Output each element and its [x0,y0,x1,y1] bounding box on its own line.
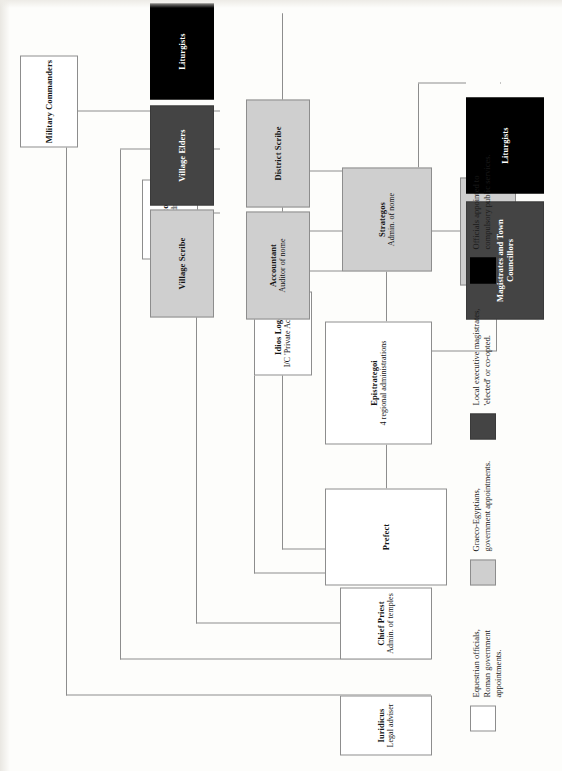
node-subtitle: Legal adviser [386,703,395,747]
connector [432,230,460,231]
legend-swatch-white [470,705,496,731]
node-prefect-rect[interactable]: Prefect [325,488,447,585]
node-title: Village Scribe [177,237,187,289]
node-title: District Scribe [273,126,283,180]
legend-swatch-gray [470,559,496,585]
diagram-canvas: Iuridicus Legal adviser Chief Priest Adm… [0,0,562,771]
connector [500,82,501,83]
legend-label: Graeco-Egyptians, government appointment… [470,460,493,551]
legend-swatch-black [470,257,496,283]
node-subtitle: Admin. of temples [386,593,395,654]
connector [282,13,283,27]
legend: Equestrian officials, Roman government a… [470,171,550,731]
node-epistrategoi[interactable]: Epistrategoi 4 regional administrations [325,321,432,444]
node-village-elders[interactable]: Village Elders [150,105,214,205]
connector [418,83,419,167]
node-title: Village Elders [177,129,187,181]
node-title: Prefect [381,523,391,550]
node-title: Liturgists [500,127,510,163]
legend-item: Officials appointed to compulsory public… [470,123,496,283]
connector [282,351,283,549]
legend-label: Equestrian officials, Roman government a… [470,629,505,697]
connector [310,170,342,171]
connector [120,149,121,659]
node-subtitle: 4 regional administrations [379,340,388,425]
legend-label: Officials appointed to compulsory public… [470,154,493,249]
node-title: Epistrategoi [369,360,379,406]
node-strategos[interactable]: Strategos Admin. of nome [342,167,432,271]
node-subtitle: Admin. of nome [387,192,396,245]
node-chief-priest[interactable]: Chief Priest Admin. of temples [340,587,432,659]
connector [66,111,67,695]
node-title: Liturgists [177,33,187,69]
node-title: Chief Priest [376,601,386,645]
node-accountant[interactable]: Accountant Auditor of nome [246,211,310,319]
node-title: Accountant [268,243,278,286]
legend-item: Local executive magistrates, 'elected' o… [470,279,496,439]
legend-label: Local executive magistrates, 'elected' o… [470,308,493,405]
node-title: Iuridicus [376,708,386,742]
node-iuridicus[interactable]: Iuridicus Legal adviser [340,695,432,755]
connector [386,271,387,321]
node-liturgists-village[interactable]: Liturgists [150,3,214,99]
connector [386,444,387,488]
legend-item: Graeco-Egyptians, government appointment… [470,435,496,585]
legend-swatch-dark [470,413,496,439]
node-district-scribe[interactable]: District Scribe [246,99,310,207]
connector [310,230,342,231]
node-military-commanders[interactable]: Military Commanders [20,55,78,147]
connector [418,82,466,83]
legend-item: Equestrian officials, Roman government a… [470,581,505,731]
node-title: Strategos [377,202,387,237]
node-village-scribe-box[interactable]: Village Scribe [150,209,214,317]
node-subtitle: Auditor of nome [278,238,287,292]
node-title: Military Commanders [44,59,54,142]
diagram-page: Iuridicus Legal adviser Chief Priest Adm… [0,0,562,771]
